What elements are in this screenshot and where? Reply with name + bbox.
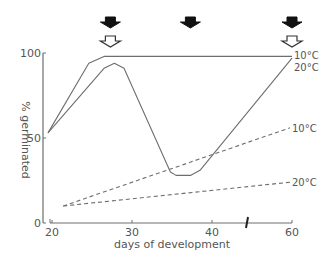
white-arrow-icon <box>282 36 302 47</box>
axis-break-marker <box>246 217 248 228</box>
y-axis-label: % germinated <box>19 101 32 179</box>
series-labels: 10°C20°C10°C20°C <box>292 50 319 188</box>
series-label: 10°C <box>292 123 317 134</box>
y-tick-label: 100 <box>20 47 41 60</box>
series-line-20c-solid <box>48 58 292 175</box>
y-tick-label: 0 <box>34 217 41 230</box>
series-line-10c-solid <box>48 56 292 132</box>
series-label: 20°C <box>294 62 319 73</box>
series-layer <box>48 56 292 206</box>
arrow-markers <box>100 17 302 47</box>
x-tick-label: 20 <box>45 226 59 239</box>
axes: 05010020304060 <box>20 47 299 239</box>
x-axis-label: days of development <box>114 238 231 251</box>
series-label: 20°C <box>292 177 317 188</box>
black-arrow-icon <box>100 17 120 28</box>
series-label: 10°C <box>294 50 319 61</box>
germination-chart: 05010020304060 10°C20°C10°C20°C days of … <box>0 0 332 260</box>
black-arrow-icon <box>180 17 200 28</box>
white-arrow-icon <box>100 36 120 47</box>
black-arrow-icon <box>282 17 302 28</box>
x-tick-label: 60 <box>285 226 299 239</box>
